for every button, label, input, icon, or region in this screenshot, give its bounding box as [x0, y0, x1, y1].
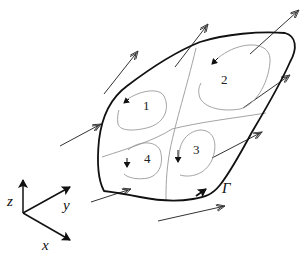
z-axis-label: z — [6, 193, 13, 209]
flow-arrows — [60, 10, 299, 221]
region-label-2: 2 — [221, 72, 228, 87]
region-label-4: 4 — [144, 151, 151, 166]
coordinate-axes: z y x — [6, 180, 70, 253]
boundary-label: Γ — [221, 180, 232, 196]
flow-arrow — [60, 124, 101, 146]
x-axis — [23, 213, 70, 240]
vortices — [118, 45, 271, 179]
region-label-3: 3 — [193, 142, 200, 157]
flow-arrow — [104, 51, 138, 94]
boundary-direction-arrow — [196, 189, 206, 196]
vortex-2-arrow — [212, 58, 218, 64]
region-dividers — [102, 48, 266, 200]
vortex-4-loop — [124, 143, 162, 179]
flow-arrow — [212, 132, 262, 158]
region-label-1: 1 — [143, 98, 150, 113]
vortex-flow-diagram: 1 2 3 4 Γ z y x — [0, 0, 306, 255]
y-axis-label: y — [61, 197, 70, 213]
flow-arrow — [158, 206, 225, 221]
x-axis-label: x — [41, 237, 49, 253]
divider-vertical — [166, 48, 196, 200]
flow-arrow — [91, 189, 131, 202]
boundary-curve-gamma — [98, 32, 295, 200]
vortex-2-loop — [199, 45, 270, 110]
